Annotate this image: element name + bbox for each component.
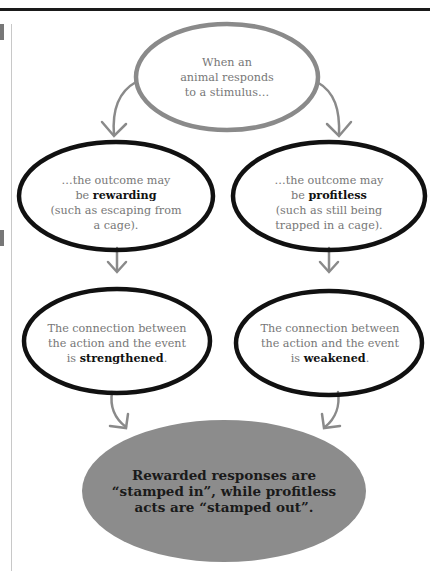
rewarding-line: a cage). [36,218,196,233]
text: is [291,352,304,365]
strengthened-keyword: strengthened [80,351,164,365]
start-node-text: When an animal responds to a stimulus… [147,55,307,100]
profitless-line: trapped in a cage). [249,218,409,233]
rewarding-line: be rewarding [36,188,196,203]
profitless-keyword: profitless [308,188,366,202]
start-line: animal responds [147,70,307,85]
conclusion-line: Rewarded responses are [94,467,354,483]
strengthened-line: The connection between [32,321,202,336]
rewarding-line: (such as escaping from [36,203,196,218]
arrow-icon [102,82,351,428]
text: . [164,352,168,365]
start-line: to a stimulus… [147,85,307,100]
text: be [291,189,308,202]
weakened-line: The connection between [245,321,415,336]
rewarding-line: …the outcome may [36,173,196,188]
rewarding-keyword: rewarding [93,188,157,202]
profitless-line: (such as still being [249,203,409,218]
conclusion-line: acts are “stamped out”. [94,499,354,515]
weakened-keyword: weakened [304,351,366,365]
strengthened-line: the action and the event [32,336,202,351]
profitless-line: be profitless [249,188,409,203]
rewarding-node-text: …the outcome may be rewarding (such as e… [36,173,196,233]
text: . [366,352,370,365]
strengthened-line: is strengthened. [32,351,202,366]
conclusion-line: “stamped in”, while profitless [94,483,354,499]
text: is [67,352,80,365]
strengthened-node-text: The connection between the action and th… [32,321,202,366]
weakened-node-text: The connection between the action and th… [245,321,415,366]
profitless-node-text: …the outcome may be profitless (such as … [249,173,409,233]
weakened-line: is weakened. [245,351,415,366]
weakened-line: the action and the event [245,336,415,351]
text: be [75,189,92,202]
profitless-line: …the outcome may [249,173,409,188]
start-line: When an [147,55,307,70]
conclusion-text: Rewarded responses are “stamped in”, whi… [94,467,354,515]
